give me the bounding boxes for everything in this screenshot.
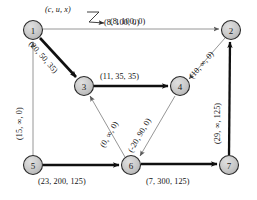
graph-canvas: 1 2 3 4 5 6 7 <box>0 0 257 200</box>
edge-label-5-1: (15, ∞, 0) <box>16 107 24 140</box>
node-1[interactable]: 1 <box>24 21 43 40</box>
node-6[interactable]: 6 <box>122 156 141 175</box>
network-flow-diagram: 1 2 3 4 5 6 7 (c, u, x) (8, 100, 0) (20 <box>0 0 257 200</box>
edge-7-2 <box>229 42 230 155</box>
node-4[interactable]: 4 <box>171 77 190 96</box>
node-2[interactable]: 2 <box>222 21 241 40</box>
edge-label-5-6: (23, 200, 125) <box>38 178 86 186</box>
edge-label-7-2: (29, ∞, 125) <box>214 103 222 144</box>
legend-example-label: (8, 100, 0) <box>104 19 139 27</box>
node-3[interactable]: 3 <box>75 77 94 96</box>
node-7[interactable]: 7 <box>220 156 239 175</box>
node-5[interactable]: 5 <box>24 156 43 175</box>
edge-label-6-7: (7, 300, 125) <box>146 178 190 186</box>
edge-label-3-4: (11, 35, 35) <box>100 73 139 81</box>
legend-tuple-key: (c, u, x) <box>45 6 71 14</box>
legend-pointer-icon <box>87 12 104 23</box>
